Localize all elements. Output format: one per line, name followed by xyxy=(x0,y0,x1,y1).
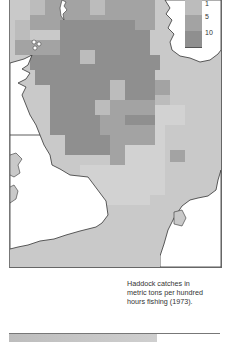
grid-cell-high xyxy=(125,80,155,100)
grid-cell-low xyxy=(95,100,110,115)
legend-swatch-5 xyxy=(185,15,202,32)
caption-line-2: metric tons per hundred xyxy=(127,288,219,297)
grid-cell-low xyxy=(155,95,170,105)
orkney-islands xyxy=(30,38,44,52)
england-landmass xyxy=(10,135,120,267)
shetland-islands xyxy=(58,0,70,22)
grid-cell-low xyxy=(15,20,30,40)
caption-line-3: hours fishing (1973). xyxy=(127,297,219,306)
grid-cell-mid xyxy=(105,0,135,15)
grid-cell-low xyxy=(90,0,105,15)
next-figure-edge xyxy=(9,333,220,342)
grid-cell-lightest xyxy=(155,105,185,125)
legend-label-5: 5 xyxy=(205,13,209,20)
legend: 1 5 10 xyxy=(185,0,202,48)
map-caption: Haddock catches in metric tons per hundr… xyxy=(127,279,219,306)
grid-cell-low xyxy=(30,0,45,15)
grid-cell-mid xyxy=(155,80,170,95)
grid-cell-mid xyxy=(110,100,155,115)
legend-label-1: 1 xyxy=(205,0,209,7)
grid-cell-mid xyxy=(100,115,125,125)
grid-cell-high xyxy=(135,30,150,55)
legend-label-10: 10 xyxy=(205,29,213,36)
scotland-landmass xyxy=(10,55,60,135)
continental-landmass xyxy=(160,170,221,267)
grid-cell-high xyxy=(60,20,135,55)
grid-cell-mid xyxy=(135,0,155,30)
map-frame: 1 5 10 xyxy=(9,0,222,268)
caption-line-1: Haddock catches in xyxy=(127,279,219,288)
grid-cell-mid xyxy=(170,150,185,162)
legend-swatch-1 xyxy=(185,0,202,16)
grid-cell-low xyxy=(80,50,95,64)
legend-swatch-10 xyxy=(185,31,202,48)
grid-cell-low xyxy=(110,80,125,100)
